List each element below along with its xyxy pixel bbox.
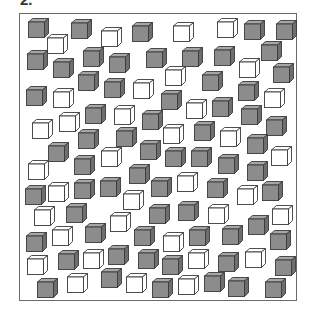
white-cube <box>220 127 241 147</box>
gray-cube <box>273 63 294 83</box>
gray-cube <box>132 22 153 42</box>
gray-cube <box>204 272 225 292</box>
gray-cube <box>66 203 87 223</box>
white-cube <box>101 147 122 167</box>
gray-cube <box>178 201 199 221</box>
figure-label: 2. <box>20 0 33 8</box>
gray-cube <box>276 20 297 40</box>
white-cube <box>272 205 293 225</box>
gray-cube <box>151 177 172 197</box>
gray-cube <box>85 104 106 124</box>
white-cube <box>165 66 186 86</box>
white-cube <box>48 182 69 202</box>
white-cube <box>123 190 144 210</box>
white-cube <box>163 232 184 252</box>
gray-cube <box>165 147 186 167</box>
white-cube <box>114 105 135 125</box>
gray-cube <box>26 86 47 106</box>
white-cube <box>67 273 88 293</box>
gray-cube <box>189 226 210 246</box>
white-cube <box>83 249 104 269</box>
gray-cube <box>162 255 183 275</box>
gray-cube <box>101 268 122 288</box>
gray-cube <box>26 232 47 252</box>
gray-cube <box>37 278 58 298</box>
gray-cube <box>202 71 223 91</box>
white-cube <box>177 172 198 192</box>
gray-cube <box>262 181 283 201</box>
gray-cube <box>265 278 286 298</box>
gray-cube <box>275 256 296 276</box>
gray-cube <box>134 226 155 246</box>
gray-cube <box>48 142 69 162</box>
gray-cube <box>218 154 239 174</box>
white-cube <box>110 212 131 232</box>
white-cube <box>101 27 122 47</box>
gray-cube <box>191 147 212 167</box>
white-cube <box>239 58 260 78</box>
gray-cube <box>247 134 268 154</box>
gray-cube <box>244 20 265 40</box>
gray-cube <box>100 177 121 197</box>
gray-cube <box>142 110 163 130</box>
white-cube <box>47 34 68 54</box>
gray-cube <box>238 81 259 101</box>
white-cube <box>27 255 48 275</box>
gray-cube <box>28 18 49 38</box>
gray-cube <box>207 178 228 198</box>
gray-cube <box>146 48 167 68</box>
white-cube <box>163 124 184 144</box>
white-cube <box>53 88 74 108</box>
white-cube <box>126 273 147 293</box>
gray-cube <box>161 90 182 110</box>
gray-cube <box>74 179 95 199</box>
white-cube <box>173 22 194 42</box>
white-cube <box>186 99 207 119</box>
gray-cube <box>270 230 291 250</box>
white-cube <box>217 18 238 38</box>
gray-cube <box>222 225 243 245</box>
gray-cube <box>129 164 150 184</box>
gray-cube <box>266 116 287 136</box>
gray-cube <box>108 245 129 265</box>
gray-cube <box>140 140 161 160</box>
white-cube <box>188 249 209 269</box>
gray-cube <box>53 58 74 78</box>
white-cube <box>34 206 55 226</box>
white-cube <box>237 185 258 205</box>
white-cube <box>133 79 154 99</box>
gray-cube <box>104 78 125 98</box>
gray-cube <box>78 129 99 149</box>
gray-cube <box>58 250 79 270</box>
gray-cube <box>212 97 233 117</box>
gray-cube <box>109 53 130 73</box>
white-cube <box>59 112 80 132</box>
white-cube <box>208 204 229 224</box>
gray-cube <box>214 46 235 66</box>
white-cube <box>28 160 49 180</box>
white-cube <box>245 248 266 268</box>
gray-cube <box>138 249 159 269</box>
white-cube <box>271 146 292 166</box>
gray-cube <box>116 127 137 147</box>
white-cube <box>264 88 285 108</box>
gray-cube <box>25 185 46 205</box>
gray-cube <box>228 277 249 297</box>
white-cube <box>52 226 73 246</box>
gray-cube <box>248 215 269 235</box>
gray-cube <box>83 47 104 67</box>
gray-cube <box>71 19 92 39</box>
gray-cube <box>152 278 173 298</box>
gray-cube <box>261 41 282 61</box>
gray-cube <box>241 105 262 125</box>
white-cube <box>32 119 53 139</box>
gray-cube <box>74 155 95 175</box>
white-cube <box>178 275 199 295</box>
gray-cube <box>85 223 106 243</box>
gray-cube <box>218 252 239 272</box>
gray-cube <box>247 161 268 181</box>
gray-cube <box>194 121 215 141</box>
gray-cube <box>78 71 99 91</box>
gray-cube <box>182 47 203 67</box>
gray-cube <box>149 204 170 224</box>
